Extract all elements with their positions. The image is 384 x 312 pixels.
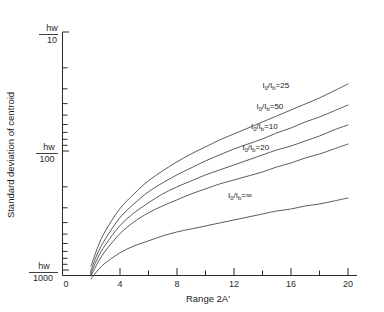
curve-label-group: I0/Ib=25I0/Ib=50I0/Ib=10I0/Ib=20I0/Ib=∞ — [228, 81, 290, 201]
curve-label-4: I0/Ib=∞ — [228, 191, 252, 201]
x-tick-label: 4 — [117, 279, 122, 289]
curve-series-0 — [91, 84, 348, 266]
curve-series-1 — [91, 105, 348, 270]
y-tick-label-hw-1000: hw 1000 — [29, 261, 58, 283]
y-tick-denominator: 1000 — [33, 273, 53, 283]
curve-group — [91, 84, 348, 279]
x-tick-label: 8 — [174, 279, 179, 289]
y-axis-ticks — [63, 32, 70, 270]
x-axis-ticks — [63, 268, 349, 276]
standard-deviation-of-centroid-chart: hw 10 hw 100 hw 1000 0 4 8 12 16 20 Rang… — [0, 0, 384, 312]
y-tick-denominator: 10 — [47, 35, 57, 45]
y-tick-label-hw-100: hw 100 — [36, 142, 58, 164]
x-tick-labels: 0 4 8 12 16 20 — [63, 279, 353, 289]
y-tick-denominator: 100 — [39, 154, 54, 164]
x-axis-title: Range 2A' — [186, 293, 230, 304]
x-tick-label: 0 — [63, 279, 68, 289]
x-tick-label: 12 — [229, 279, 239, 289]
axis-lines — [63, 32, 358, 276]
y-tick-numerator: hw — [46, 23, 58, 33]
y-tick-label-hw-10: hw 10 — [39, 23, 58, 45]
curve-series-2 — [91, 125, 348, 273]
y-axis-title: Standard deviation of centroid — [5, 92, 16, 218]
y-tick-numerator: hw — [43, 142, 55, 152]
figure-container: hw 10 hw 100 hw 1000 0 4 8 12 16 20 Rang… — [0, 0, 384, 312]
y-tick-numerator: hw — [38, 261, 50, 271]
curve-label-0: I0/Ib=25 — [262, 81, 289, 91]
x-tick-label: 16 — [286, 279, 296, 289]
curve-series-4 — [91, 198, 348, 279]
curve-series-3 — [91, 144, 348, 276]
curve-label-1: I0/Ib=50 — [257, 102, 284, 112]
x-tick-label: 20 — [343, 279, 353, 289]
curve-label-2: I0/Ib=10 — [251, 122, 278, 132]
